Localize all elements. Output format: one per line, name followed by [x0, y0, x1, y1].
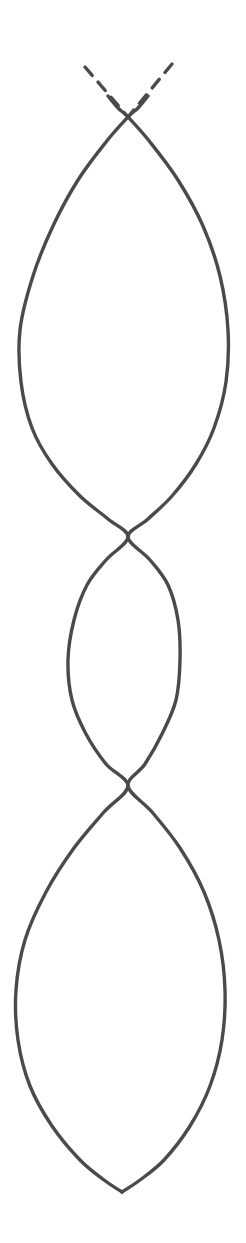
- curves-diagram: Two crossing curves forming three lens-s…: [0, 0, 246, 1243]
- figure-root: Two crossing curves forming three lens-s…: [0, 0, 246, 1243]
- figure-background: [0, 0, 246, 1243]
